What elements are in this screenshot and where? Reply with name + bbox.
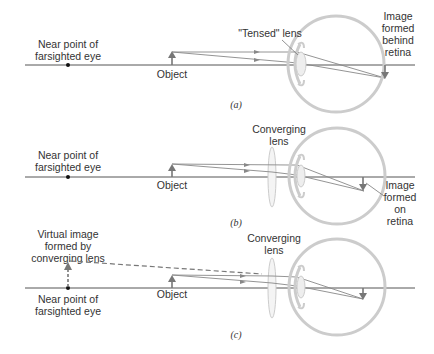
- near-point-label-2: farsighted eye: [35, 50, 101, 62]
- panel-a: Near point of farsighted eye Object "Ten…: [25, 10, 415, 112]
- eye-icon: [288, 16, 384, 112]
- near-point-label-2: farsighted eye: [35, 305, 101, 317]
- lens-label: "Tensed" lens: [238, 27, 302, 39]
- near-point-label-2: farsighted eye: [35, 161, 101, 173]
- panel-b: Near point of farsighted eye Object Conv…: [25, 123, 416, 229]
- near-point-label-1: Near point of: [38, 293, 98, 305]
- virtual-image-label-2: formed by: [45, 240, 92, 252]
- near-point-label-1: Near point of: [38, 149, 98, 161]
- lens-label-2: lens: [264, 244, 283, 256]
- ray-arrowhead-icon: [240, 274, 246, 278]
- near-point-dot: [66, 175, 70, 179]
- near-point-dot: [66, 63, 70, 67]
- caption-c: (c): [230, 329, 242, 341]
- farsighted-eye-correction-diagram: Near point of farsighted eye Object "Ten…: [0, 0, 434, 354]
- image-leader: [366, 183, 384, 196]
- virtual-image-label-1: Virtual image: [37, 228, 98, 240]
- caption-b: (b): [230, 217, 242, 229]
- ray-arrowhead-icon: [254, 58, 260, 62]
- object-label: Object: [157, 288, 187, 300]
- eye-icon: [289, 128, 385, 224]
- ray-arrowhead-icon: [254, 50, 260, 54]
- object-arrow-icon: [168, 51, 176, 65]
- object-label: Object: [157, 179, 187, 191]
- caption-a: (a): [230, 99, 242, 111]
- image-label-4: retina: [387, 215, 413, 227]
- lens-label-2: lens: [269, 135, 288, 147]
- image-label-3: behind: [382, 34, 414, 46]
- image-label-3: on: [394, 203, 406, 215]
- eye-icon: [289, 239, 385, 335]
- lens-label-1: Converging: [252, 123, 306, 135]
- image-label-4: retina: [385, 46, 411, 58]
- image-label-1: Image: [385, 179, 414, 191]
- image-arrow-icon: [359, 177, 367, 191]
- ray-top: [172, 275, 363, 299]
- virtual-image-arrow-icon: [64, 262, 72, 287]
- image-label-2: formed: [382, 22, 415, 34]
- object-arrow-icon: [168, 164, 176, 177]
- image-label-1: Image: [383, 10, 412, 22]
- ray-arrowhead-icon: [244, 163, 250, 167]
- ray-bottom: [172, 275, 363, 299]
- converging-lens-icon: [268, 258, 276, 318]
- lens-label-1: Converging: [247, 232, 301, 244]
- panel-c: Virtual image formed by converging lens …: [25, 228, 415, 341]
- image-label-2: formed: [384, 191, 417, 203]
- near-point-label-1: Near point of: [38, 38, 98, 50]
- converging-lens-icon: [268, 147, 276, 207]
- object-label: Object: [157, 68, 187, 80]
- virtual-ray-dashed: [70, 261, 262, 274]
- object-arrow-icon: [168, 275, 176, 288]
